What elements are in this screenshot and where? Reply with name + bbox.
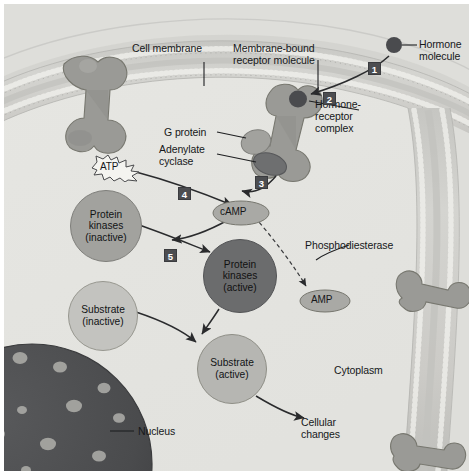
cellular-changes-label: Cellular changes xyxy=(301,416,340,440)
step-box-1: 1 xyxy=(368,62,381,75)
figure-page: ATP cAMP AMP Protein kinases (inactive) … xyxy=(0,0,473,475)
step-box-2: 2 xyxy=(323,92,336,105)
hormone-molecule-label: Hormone molecule xyxy=(419,38,462,62)
membrane-bound-receptor-label: Membrane-bound receptor molecule xyxy=(233,42,315,66)
hormone-receptor-complex-dot xyxy=(289,91,307,108)
camp-label: cAMP xyxy=(220,206,246,218)
step-box-4: 4 xyxy=(178,187,191,200)
adenylate-cyclase-label: Adenylate cyclase xyxy=(159,143,205,167)
protein-kinases-inactive-label: Protein kinases (inactive) xyxy=(85,209,126,244)
protein-kinases-active-label: Protein kinases (active) xyxy=(223,259,258,294)
cytoplasm-label: Cytoplasm xyxy=(334,364,383,376)
cell-signaling-diagram: ATP cAMP AMP Protein kinases (inactive) … xyxy=(4,4,469,471)
step-box-3: 3 xyxy=(255,176,268,189)
substrate-inactive: Substrate (inactive) xyxy=(68,281,138,351)
atp-label: ATP xyxy=(100,161,118,173)
nucleus-label: Nucleus xyxy=(138,425,175,437)
protein-kinases-active: Protein kinases (active) xyxy=(203,239,277,313)
g-protein-label: G protein xyxy=(164,126,206,138)
substrate-inactive-label: Substrate (inactive) xyxy=(81,304,125,327)
hormone-receptor-complex-label: Hormone- receptor complex xyxy=(315,98,361,135)
step-box-5: 5 xyxy=(164,249,177,262)
phosphodiesterase-label: Phosphodiesterase xyxy=(305,239,393,251)
substrate-active-label: Substrate (active) xyxy=(210,357,254,380)
amp-label: AMP xyxy=(311,294,332,306)
protein-kinases-inactive: Protein kinases (inactive) xyxy=(70,190,142,262)
substrate-active: Substrate (active) xyxy=(197,334,267,404)
cell-membrane-label: Cell membrane xyxy=(132,42,202,54)
hormone-molecule-dot xyxy=(386,37,402,53)
